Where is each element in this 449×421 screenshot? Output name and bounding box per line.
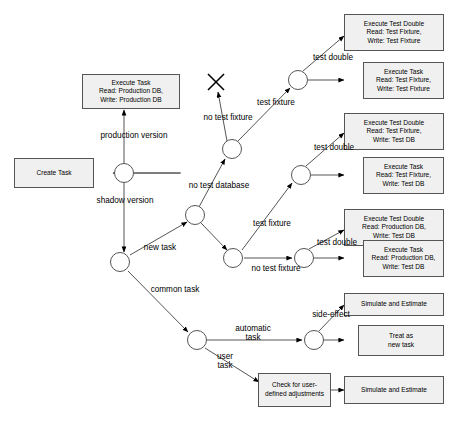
edge-label-no-test-database: no test database [171, 181, 267, 190]
edge-label-no-test-fixture-top: no test fixture [186, 113, 270, 122]
node-execute-test-double-fixture-fixture[interactable]: Execute Test Double Read: Test Fixture, … [344, 14, 444, 51]
junction-test-double-fixture-testdb[interactable] [291, 165, 311, 185]
dead-end-x-icon [206, 72, 226, 92]
edge-label-production-version: production version [84, 131, 184, 140]
junction-test-double-fixture-fixture[interactable] [288, 70, 308, 90]
diagram-canvas: Create Task Execute Task Read: Productio… [0, 0, 449, 421]
edge-label-test-double-3: test double [300, 238, 374, 247]
edge-label-side-effect: side-effect [296, 310, 366, 319]
node-execute-task-fixture-testdb[interactable]: Execute Task Read: Test Fixture, Write: … [363, 157, 444, 194]
junction-no-test-database-fixture[interactable] [222, 139, 242, 159]
junction-task-type-split[interactable] [110, 252, 130, 272]
edge-label-test-fixture-mid: test fixture [236, 219, 308, 228]
edge-label-test-double-2: test double [297, 143, 371, 152]
node-check-for-user-defined-adjustments[interactable]: Check for user- defined adjustments [258, 373, 331, 407]
node-simulate-and-estimate-2[interactable]: Simulate and Estimate [344, 376, 444, 404]
junction-task-kind-split[interactable] [187, 330, 207, 350]
edge-label-common-task: common task [134, 285, 216, 294]
junction-version-split[interactable] [114, 163, 134, 183]
edge-label-test-double-1: test double [296, 53, 370, 62]
edge-label-new-task: new task [129, 243, 191, 252]
node-execute-task-production[interactable]: Execute Task Read: Production DB, Write:… [82, 74, 180, 109]
node-execute-task-fixture-fixture[interactable]: Execute Task Read: Test Fixture, Write: … [363, 62, 444, 99]
node-execute-task-production-testdb[interactable]: Execute Task Read: Production DB, Write:… [363, 240, 444, 277]
edge-label-user-task: user task [203, 352, 247, 371]
node-treat-as-new-task[interactable]: Treat as new task [358, 325, 444, 356]
edge-label-automatic-task: automatic task [222, 324, 284, 343]
junction-side-effect[interactable] [304, 330, 324, 350]
edge-label-test-fixture-top: test fixture [240, 98, 312, 107]
edge-label-no-test-fixture-mid: no test fixture [234, 264, 318, 273]
junction-test-database-split[interactable] [185, 205, 205, 225]
node-create-task[interactable]: Create Task [14, 158, 94, 188]
edge-label-shadow-version: shadow version [79, 196, 171, 205]
